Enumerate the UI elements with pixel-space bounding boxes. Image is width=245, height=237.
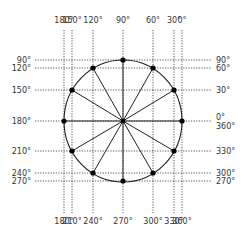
angle-point-90 xyxy=(120,57,125,62)
top-angle-labels: 180°150°120°90°60°30°0° xyxy=(54,16,186,25)
right-label: 330° xyxy=(216,147,235,156)
angle-point-30 xyxy=(171,87,176,92)
top-label: 0° xyxy=(177,16,186,25)
angle-point-150 xyxy=(69,87,74,92)
left-label: 270° xyxy=(12,177,31,186)
bottom-label: 240° xyxy=(83,217,102,226)
bottom-label: 300° xyxy=(143,217,162,226)
angle-point-210 xyxy=(69,148,74,153)
right-label: 30° xyxy=(216,86,230,95)
radius-spoke-120 xyxy=(93,68,123,121)
right-label: 360° xyxy=(216,122,235,131)
center-point xyxy=(121,119,126,124)
angle-point-0 xyxy=(179,118,184,123)
radius-spoke-240 xyxy=(93,121,123,173)
angle-point-60 xyxy=(150,65,155,70)
left-label: 120° xyxy=(12,64,31,73)
angle-point-270 xyxy=(120,178,125,183)
bottom-label: 210° xyxy=(62,217,81,226)
angle-point-180 xyxy=(61,118,66,123)
radius-spoke-330 xyxy=(123,121,174,151)
top-label: 60° xyxy=(146,16,160,25)
radius-spoke-60 xyxy=(123,68,153,121)
radius-spoke-300 xyxy=(123,121,153,173)
angle-point-120 xyxy=(90,65,95,70)
bottom-label: 360° xyxy=(172,217,191,226)
right-label: 60° xyxy=(216,64,230,73)
top-label: 90° xyxy=(116,16,130,25)
radius-spoke-30 xyxy=(123,90,174,121)
left-label: 150° xyxy=(12,86,31,95)
radius-spoke-150 xyxy=(72,90,123,121)
left-label: 210° xyxy=(12,147,31,156)
top-label: 150° xyxy=(62,16,81,25)
left-angle-labels: 90°120°150°180°210°240°270° xyxy=(12,56,31,186)
angle-point-330 xyxy=(171,148,176,153)
left-label: 180° xyxy=(12,117,31,126)
bottom-label: 270° xyxy=(113,217,132,226)
right-label: 270° xyxy=(216,177,235,186)
bottom-angle-labels: 180°210°240°270°300°330°360° xyxy=(54,217,191,226)
angle-point-300 xyxy=(150,170,155,175)
angle-point-240 xyxy=(90,170,95,175)
unit-circle-diagram: 180°150°120°90°60°30°0° 180°210°240°270°… xyxy=(0,0,245,237)
right-angle-labels: 90°60°30°0°360°330°300°270° xyxy=(216,56,235,186)
radius-spoke-210 xyxy=(72,121,123,151)
right-label: 0° xyxy=(216,113,225,122)
top-label: 120° xyxy=(83,16,102,25)
